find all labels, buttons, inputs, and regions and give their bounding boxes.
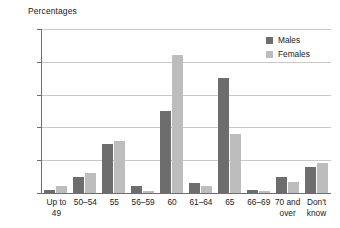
bar-females (259, 191, 270, 193)
x-axis-tick-label: 55 (100, 197, 129, 208)
y-axis-tick (37, 160, 41, 161)
bar-males (189, 183, 200, 193)
legend-item-females: Females (266, 47, 310, 61)
bar-females (317, 163, 328, 193)
x-axis-tick-label: Don't know (302, 197, 331, 218)
bar-group (158, 29, 187, 193)
legend-item-males: Males (266, 33, 310, 47)
x-axis-line (41, 193, 331, 194)
bar-males (44, 190, 55, 193)
legend-label-females: Females (278, 49, 310, 59)
y-axis-tick (37, 95, 41, 96)
legend-swatch-females-icon (266, 51, 273, 58)
bar-males (218, 78, 229, 193)
y-axis-tick (37, 62, 41, 63)
bar-males (131, 186, 142, 193)
bar-males (102, 144, 113, 193)
bar-group (129, 29, 158, 193)
x-axis-tick-label: 65 (215, 197, 244, 208)
legend-swatch-males-icon (266, 37, 273, 44)
bar-females (288, 182, 299, 193)
x-axis-tick-label: 50–54 (71, 197, 100, 208)
y-axis-tick (37, 193, 41, 194)
x-axis-tick-label: 61–64 (187, 197, 216, 208)
x-axis-tick-label: 56–59 (129, 197, 158, 208)
x-axis-tick-label: Up to 49 (42, 197, 71, 218)
bar-males (247, 190, 258, 193)
x-axis-tick-label: 66–69 (244, 197, 273, 208)
bar-females (56, 186, 67, 193)
bar-females (143, 191, 154, 193)
legend: Males Females (266, 33, 310, 61)
bar-females (85, 173, 96, 193)
bar-males (73, 177, 84, 193)
bar-group (187, 29, 216, 193)
bar-group (215, 29, 244, 193)
bar-males (305, 167, 316, 193)
bar-males (276, 177, 287, 193)
y-axis-tick (37, 29, 41, 30)
bar-group (100, 29, 129, 193)
bar-females (114, 141, 125, 193)
x-axis-tick-label: 70 and over (273, 197, 302, 218)
bar-group (42, 29, 71, 193)
x-axis-tick-label: 60 (158, 197, 187, 208)
y-axis-tick (37, 127, 41, 128)
bar-females (230, 134, 241, 193)
bar-females (201, 186, 212, 193)
bar-females (172, 55, 183, 193)
bar-males (160, 111, 171, 193)
legend-label-males: Males (278, 35, 300, 45)
y-axis-title: Percentages (28, 6, 77, 16)
bar-group (71, 29, 100, 193)
bar-chart: Percentages 01020304050 Up to 4950–54555… (0, 0, 340, 228)
